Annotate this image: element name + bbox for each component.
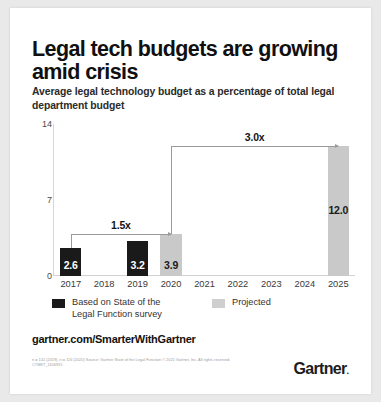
gartner-logo-text: Gartner [294,360,347,377]
bar-value-label: 3.9 [160,259,181,271]
bar-2019: 3.2 [127,241,148,276]
x-tick-label-2017: 2017 [60,279,81,289]
x-tick-label-2018: 2018 [94,279,115,289]
x-tick-label-2021: 2021 [194,279,215,289]
legend-item-projected[interactable]: Projected [212,297,271,309]
page-title: Legal tech budgets are growing amid cris… [32,38,350,84]
legend-label: Based on State of the Legal Function sur… [72,297,162,320]
y-tick-label: 14 [30,119,52,129]
legend-label: Projected [232,297,271,309]
subtitle: Average legal technology budget as a per… [32,85,344,112]
y-tick-label: 0 [30,271,52,281]
footnote-source: n = 142 (2019), n = 116 (2020) Source: G… [32,357,242,368]
annotation-line [71,234,171,235]
bar-2025: 12.0 [328,146,349,276]
bar-2017: 2.6 [60,248,81,276]
bar-value-label: 3.2 [127,259,148,271]
infographic-card: Legal tech budgets are growing amid cris… [10,8,371,394]
x-tick-label-2019: 2019 [127,279,148,289]
chart-legend: Based on State of the Legal Function sur… [52,297,352,323]
legend-swatch-icon [212,299,225,308]
x-tick-label-2025: 2025 [328,279,349,289]
x-tick-label-2023: 2023 [261,279,282,289]
annotation-arrow [335,144,339,148]
gartner-logo: Gartner. [294,360,349,378]
annotation-stem [71,234,72,248]
annotation-stem [171,146,172,234]
annotation-label: 3.0x [245,131,265,143]
gartner-logo-mark: . [346,366,349,376]
x-tick-label-2022: 2022 [228,279,249,289]
x-tick-label-2024: 2024 [294,279,315,289]
plot-area: 2.63.23.912.01.5x3.0x [54,124,355,276]
bar-chart: 0714 2.63.23.912.01.5x3.0x 2017201820192… [32,115,356,283]
y-tick-label: 7 [30,195,52,205]
x-tick-label-2020: 2020 [161,279,182,289]
bar-value-label: 2.6 [60,259,81,271]
legend-item-survey[interactable]: Based on State of the Legal Function sur… [52,297,162,320]
legend-swatch-icon [52,299,65,308]
annotation-label: 1.5x [111,219,131,231]
gartner-url[interactable]: gartner.com/SmarterWithGartner [32,333,196,345]
bar-2020: 3.9 [160,234,181,276]
annotation-line [171,146,338,147]
bar-value-label: 12.0 [328,204,349,216]
